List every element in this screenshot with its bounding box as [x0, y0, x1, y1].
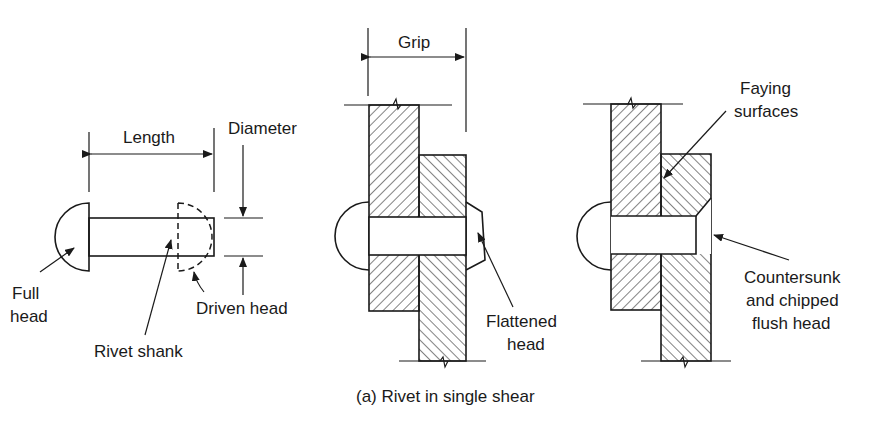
flattened-head-leader: [478, 233, 513, 307]
full-head-shape: [335, 202, 369, 270]
flattened-head-label-line2: head: [507, 335, 545, 354]
faying-surfaces-label-line1: Faying: [740, 79, 791, 98]
grip-label: Grip: [398, 33, 430, 52]
rivet-figure: Length Diameter Full head Rivet shank Dr…: [0, 0, 874, 428]
driven-head-dashed-shape: [178, 203, 212, 271]
driven-head-leader: [194, 272, 204, 292]
diameter-label: Diameter: [228, 119, 297, 138]
left-plate: [611, 104, 661, 310]
flattened-head-shape: [466, 202, 485, 270]
full-head-label-line1: Full: [12, 284, 39, 303]
driven-head-label: Driven head: [196, 299, 288, 318]
countersunk-label-line3: flush head: [752, 314, 830, 333]
rivet-shank-shape: [89, 218, 214, 256]
full-head-shape: [55, 203, 89, 271]
countersunk-label-line2: and chipped: [746, 291, 839, 310]
rivet-diagram-svg: Length Diameter Full head Rivet shank Dr…: [0, 0, 874, 428]
undriven-rivet: Length Diameter Full head Rivet shank Dr…: [10, 119, 297, 361]
faying-surfaces-label-line2: surfaces: [734, 102, 798, 121]
flattened-head-joint: Grip Flattened head: [335, 28, 557, 367]
flattened-head-label-line1: Flattened: [486, 312, 557, 331]
full-head-leader: [40, 248, 74, 272]
full-head-shape: [577, 202, 611, 270]
figure-caption: (a) Rivet in single shear: [356, 387, 535, 406]
left-plate: [369, 105, 419, 311]
rivet-shank-in-plates: [369, 217, 466, 255]
countersunk-label-line1: Countersunk: [744, 268, 841, 287]
rivet-shank-leader: [145, 240, 171, 335]
full-head-label-line2: head: [10, 307, 48, 326]
countersunk-head-leader: [714, 235, 789, 260]
length-label: Length: [123, 128, 175, 147]
right-plate: [419, 155, 466, 361]
right-plate: [661, 154, 711, 361]
countersunk-head-joint: Faying surfaces Countersunk and chipped …: [577, 79, 841, 367]
rivet-shank-label: Rivet shank: [94, 342, 183, 361]
